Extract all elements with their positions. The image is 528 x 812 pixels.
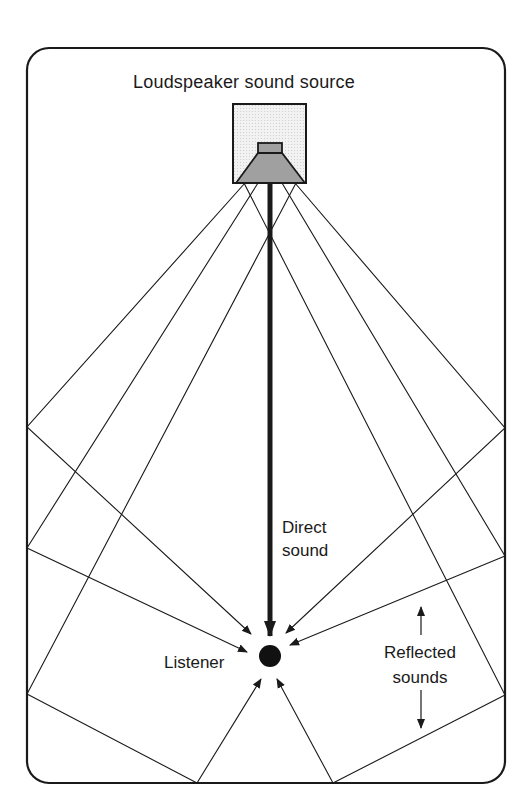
diagram-title: Loudspeaker sound source <box>133 73 355 91</box>
reflection-right-1 <box>286 183 505 633</box>
reflected-sounds-label: Reflected sounds <box>372 640 468 690</box>
reflection-left-2 <box>27 183 258 652</box>
listener-label: Listener <box>164 654 224 671</box>
reflected-sounds-label-line2: sounds <box>372 665 468 690</box>
reflection-right-2 <box>282 183 505 645</box>
direct-sound-label-line1: Direct <box>282 516 328 539</box>
speaker-magnet <box>258 143 282 153</box>
loudspeaker-icon <box>233 104 306 183</box>
reflected-sounds-label-line1: Reflected <box>372 640 468 665</box>
reflection-left-floor <box>27 183 296 783</box>
reflected-sound-paths <box>27 183 505 783</box>
reflection-right-floor <box>244 183 505 783</box>
direct-sound-label-line2: sound <box>282 539 328 562</box>
direct-sound-label: Direct sound <box>282 516 328 562</box>
listener-dot <box>259 645 281 667</box>
reflection-left-1 <box>27 183 251 634</box>
sound-reflection-diagram <box>0 0 528 812</box>
